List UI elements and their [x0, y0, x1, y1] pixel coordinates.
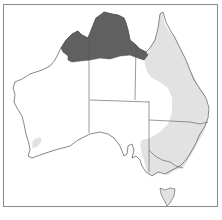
sw-range-light	[32, 137, 42, 148]
north-range-dark	[61, 12, 148, 62]
tasmania	[160, 188, 175, 206]
australia-map	[0, 0, 222, 220]
border-nt-sa	[90, 100, 149, 102]
